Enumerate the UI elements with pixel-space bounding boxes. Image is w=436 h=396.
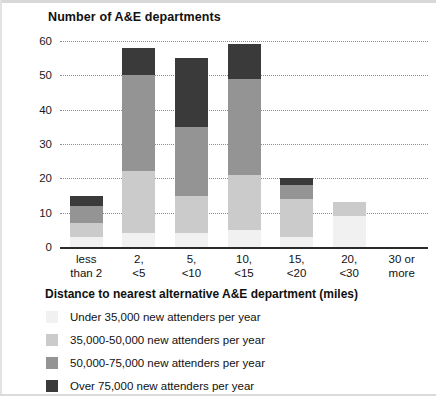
legend-swatch-3 (46, 380, 58, 392)
bar-segment-2-0 (175, 233, 208, 247)
y-tick-label-50: 50 (12, 69, 52, 81)
chart-legend: Under 35,000 new attenders per year35,00… (46, 307, 386, 396)
legend-label-0: Under 35,000 new attenders per year (70, 311, 261, 323)
bar-segment-0-2 (70, 206, 103, 223)
plot-area (60, 41, 428, 247)
bar-1[interactable] (122, 48, 155, 247)
legend-swatch-0 (46, 311, 58, 323)
legend-item-3[interactable]: Over 75,000 new attenders per year (46, 376, 386, 396)
x-tick-label-6: 30 ormore (371, 252, 433, 280)
legend-item-1[interactable]: 35,000-50,000 new attenders per year (46, 330, 386, 350)
legend-swatch-2 (46, 357, 58, 369)
bar-0[interactable] (70, 196, 103, 247)
bar-3[interactable] (228, 44, 261, 247)
legend-label-3: Over 75,000 new attenders per year (70, 380, 254, 392)
bar-segment-4-1 (280, 199, 313, 237)
bar-segment-5-1 (333, 202, 366, 216)
bar-segment-4-0 (280, 237, 313, 247)
y-tick-label-0: 0 (12, 241, 52, 253)
bar-4[interactable] (280, 178, 313, 247)
bar-segment-0-1 (70, 223, 103, 237)
x-axis-title: Distance to nearest alternative A&E depa… (45, 287, 358, 301)
bar-segment-1-0 (122, 233, 155, 247)
bar-segment-2-2 (175, 127, 208, 196)
y-tick-label-40: 40 (12, 104, 52, 116)
bar-segment-2-1 (175, 196, 208, 234)
bar-segment-1-1 (122, 171, 155, 233)
bar-segment-4-3 (280, 178, 313, 185)
bar-segment-1-3 (122, 48, 155, 75)
legend-label-1: 35,000-50,000 new attenders per year (70, 334, 265, 346)
bar-segment-0-3 (70, 196, 103, 206)
y-tick-label-60: 60 (12, 35, 52, 47)
x-axis-labels: lessthan 22,<55,<1010,<1515,<2020,<3030 … (60, 252, 428, 288)
bar-segment-3-2 (228, 79, 261, 175)
bar-5[interactable] (333, 202, 366, 247)
bar-segment-4-2 (280, 185, 313, 199)
y-tick-label-10: 10 (12, 207, 52, 219)
legend-swatch-1 (46, 334, 58, 346)
gridline-60 (60, 41, 428, 42)
legend-item-2[interactable]: 50,000-75,000 new attenders per year (46, 353, 386, 373)
bar-segment-3-0 (228, 230, 261, 247)
bar-segment-1-2 (122, 75, 155, 171)
bar-segment-3-3 (228, 44, 261, 78)
y-axis-ticks: 0102030405060 (12, 41, 52, 247)
bar-segment-5-0 (333, 216, 366, 247)
scan-edge-left (0, 0, 2, 396)
legend-item-0[interactable]: Under 35,000 new attenders per year (46, 307, 386, 327)
legend-label-2: 50,000-75,000 new attenders per year (70, 357, 265, 369)
bar-2[interactable] (175, 58, 208, 247)
chart-title: Number of A&E departments (48, 10, 221, 24)
scan-edge-top (0, 0, 436, 3)
x-axis-line (60, 247, 428, 249)
y-tick-label-30: 30 (12, 138, 52, 150)
chart-figure: Number of A&E departments 0102030405060 … (0, 0, 436, 396)
bar-segment-0-0 (70, 237, 103, 247)
bar-segment-2-3 (175, 58, 208, 127)
bar-segment-3-1 (228, 175, 261, 230)
y-tick-label-20: 20 (12, 172, 52, 184)
